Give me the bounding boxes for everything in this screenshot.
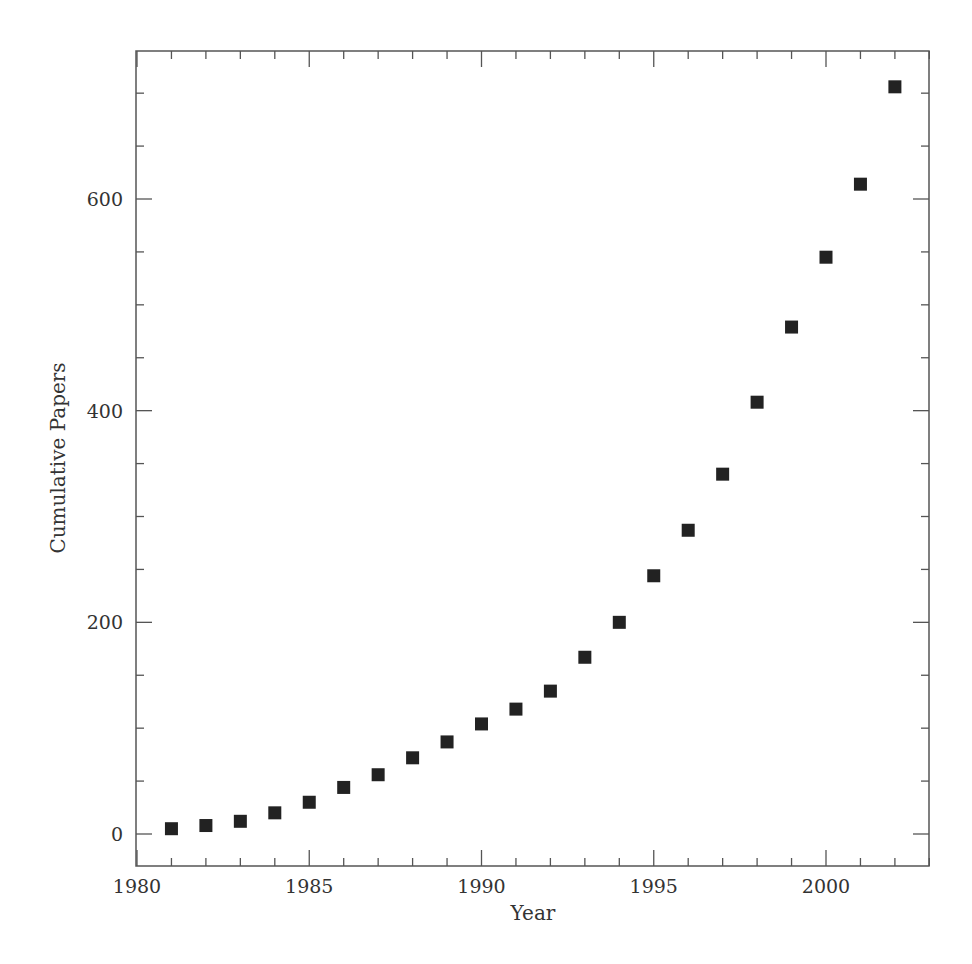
x-tick-labels: 19801985199019952000 — [113, 875, 850, 897]
scatter-chart: 19801985199019952000 0200400600 Year Cum… — [0, 0, 972, 964]
y-tick-label: 200 — [87, 611, 123, 633]
x-tick-label: 2000 — [802, 875, 850, 897]
data-point-marker — [820, 251, 833, 264]
x-tick-label: 1985 — [285, 875, 333, 897]
x-tick-label: 1980 — [113, 875, 161, 897]
data-point-marker — [716, 468, 729, 481]
data-point-marker — [682, 524, 695, 537]
data-point-marker — [165, 822, 178, 835]
y-tick-label: 0 — [111, 823, 123, 845]
y-tick-label: 400 — [87, 400, 123, 422]
data-point-marker — [406, 751, 419, 764]
x-axis-title: Year — [510, 901, 556, 925]
data-point-marker — [303, 796, 316, 809]
data-point-marker — [647, 569, 660, 582]
axis-ticks — [136, 51, 929, 866]
data-point-marker — [785, 321, 798, 334]
data-point-marker — [578, 651, 591, 664]
data-point-marker — [475, 717, 488, 730]
data-points — [165, 80, 901, 835]
data-point-marker — [509, 703, 522, 716]
data-point-marker — [268, 806, 281, 819]
data-point-marker — [751, 396, 764, 409]
data-point-marker — [372, 768, 385, 781]
x-tick-label: 1990 — [457, 875, 505, 897]
y-axis-title: Cumulative Papers — [46, 362, 70, 553]
data-point-marker — [544, 685, 557, 698]
data-point-marker — [199, 819, 212, 832]
data-point-marker — [888, 80, 901, 93]
x-tick-label: 1995 — [630, 875, 678, 897]
data-point-marker — [613, 616, 626, 629]
y-tick-labels: 0200400600 — [87, 188, 123, 845]
data-point-marker — [854, 178, 867, 191]
data-point-marker — [441, 735, 454, 748]
y-tick-label: 600 — [87, 188, 123, 210]
data-point-marker — [234, 815, 247, 828]
plot-frame — [136, 51, 929, 866]
data-point-marker — [337, 781, 350, 794]
